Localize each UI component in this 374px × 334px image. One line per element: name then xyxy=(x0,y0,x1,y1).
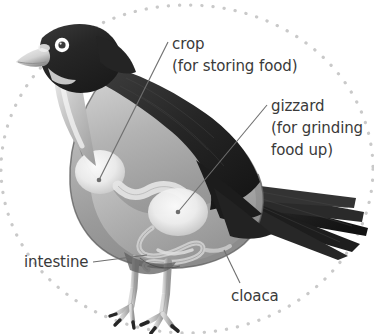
leader-line-cloaca xyxy=(224,250,240,283)
label-crop-note: (for storing food) xyxy=(172,56,297,76)
label-gizzard-note-line2: food up) xyxy=(271,140,333,160)
legs-and-feet xyxy=(110,252,180,333)
label-gizzard-note-line1: (for grinding xyxy=(271,118,363,138)
bird-anatomy-diagram: crop (for storing food) gizzard (for gri… xyxy=(0,0,374,334)
label-cloaca: cloaca xyxy=(231,286,279,306)
eye xyxy=(55,38,69,52)
foot-rear xyxy=(110,306,134,328)
label-intestine: intestine xyxy=(24,252,88,272)
label-gizzard: gizzard xyxy=(271,96,324,116)
label-crop: crop xyxy=(172,34,204,54)
